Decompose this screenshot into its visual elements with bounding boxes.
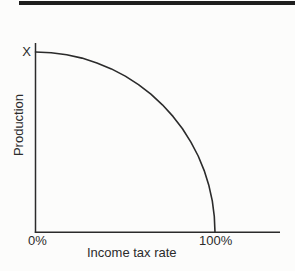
x-tick-label-0: 0% (28, 234, 47, 248)
production-curve (36, 52, 216, 232)
y-axis-title: Production (12, 94, 26, 156)
chart-canvas (0, 0, 295, 271)
x-axis-title: Income tax rate (87, 246, 177, 260)
x-tick-label-100: 100% (199, 234, 230, 248)
laffer-curve-figure: X Production 0% 100% Income tax rate (0, 0, 295, 271)
y-max-point-label: X (17, 45, 31, 59)
